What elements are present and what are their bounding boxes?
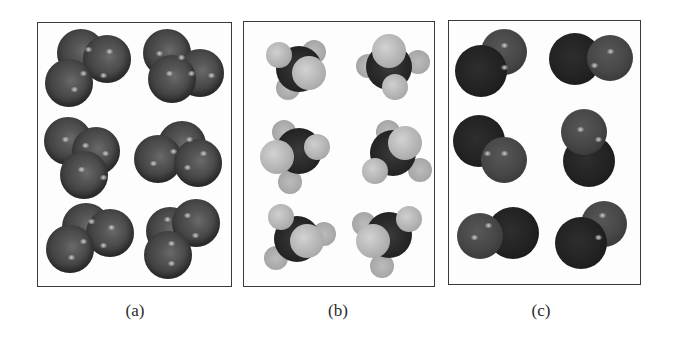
- highlight: [599, 213, 606, 218]
- highlight: [78, 167, 85, 172]
- hydrogen-atom: [304, 134, 330, 160]
- panel-a-caption: (a): [105, 301, 165, 321]
- atom: [144, 231, 192, 279]
- triatomic-molecule: [134, 121, 224, 201]
- highlight: [471, 235, 478, 240]
- highlight: [501, 43, 508, 48]
- diatomic-molecule: [553, 107, 643, 187]
- diatomic-molecule: [453, 29, 543, 109]
- highlight: [170, 149, 177, 154]
- atom: [174, 139, 222, 187]
- dark-atom: [555, 217, 607, 269]
- diatomic-molecule: [457, 207, 547, 287]
- hydrogen-atom: [362, 158, 388, 184]
- atom: [46, 225, 94, 273]
- medium-atom: [481, 137, 527, 183]
- highlight: [108, 225, 115, 230]
- highlight: [192, 233, 199, 238]
- triatomic-molecule: [43, 29, 133, 109]
- highlight: [166, 71, 173, 76]
- highlight: [501, 65, 508, 70]
- tetrahedral-molecule: [354, 120, 444, 200]
- diatomic-molecule: [451, 115, 541, 195]
- triatomic-molecule: [138, 29, 228, 109]
- highlight: [85, 47, 92, 52]
- diatomic-molecule: [549, 31, 639, 111]
- atom: [148, 55, 196, 103]
- medium-atom: [457, 213, 503, 259]
- highlight: [100, 175, 107, 180]
- highlight: [595, 235, 602, 240]
- dark-atom: [455, 45, 507, 97]
- hydrogen-atom: [266, 42, 292, 68]
- highlight: [485, 223, 492, 228]
- hydrogen-atom: [356, 224, 390, 258]
- highlight: [178, 55, 185, 60]
- panel-c-frame: [448, 20, 641, 285]
- tetrahedral-molecule: [354, 32, 444, 112]
- highlight: [156, 51, 163, 56]
- hydrogen-atom: [292, 56, 326, 90]
- medium-atom: [561, 109, 607, 155]
- tetrahedral-molecule: [350, 202, 440, 282]
- highlight: [150, 161, 157, 166]
- tetrahedral-molecule: [258, 118, 348, 198]
- hydrogen-atom: [260, 140, 294, 174]
- triatomic-molecule: [44, 117, 134, 197]
- highlight: [591, 63, 598, 68]
- hydrogen-atom: [388, 126, 422, 160]
- panel-a-frame: [37, 22, 232, 287]
- highlight: [200, 151, 207, 156]
- highlight: [186, 137, 193, 142]
- highlight: [80, 239, 87, 244]
- highlight: [484, 151, 491, 156]
- hydrogen-atom: [382, 74, 408, 100]
- highlight: [80, 71, 87, 76]
- atom: [45, 59, 93, 107]
- tetrahedral-molecule: [262, 36, 352, 116]
- highlight: [607, 49, 614, 54]
- highlight: [106, 49, 113, 54]
- highlight: [184, 213, 191, 218]
- hydrogen-atom: [268, 204, 294, 230]
- triatomic-molecule: [44, 203, 134, 283]
- highlight: [100, 243, 107, 248]
- hydrogen-atom: [396, 206, 422, 232]
- hydrogen-atom: [372, 34, 406, 68]
- panel-b-caption: (b): [308, 301, 368, 321]
- highlight: [577, 127, 584, 132]
- highlight: [501, 151, 508, 156]
- highlight: [595, 137, 602, 142]
- tetrahedral-molecule: [260, 202, 350, 282]
- highlight: [68, 255, 75, 260]
- highlight: [82, 143, 89, 148]
- highlight: [62, 137, 69, 142]
- hydrogen-atom: [290, 224, 324, 258]
- highlight: [188, 71, 195, 76]
- highlight: [102, 151, 109, 156]
- medium-atom: [587, 35, 633, 81]
- highlight: [88, 219, 95, 224]
- highlight: [164, 217, 171, 222]
- highlight: [71, 87, 78, 92]
- highlight: [100, 73, 107, 78]
- highlight: [208, 73, 215, 78]
- highlight: [168, 261, 175, 266]
- triatomic-molecule: [142, 199, 232, 279]
- diatomic-molecule: [553, 201, 643, 281]
- panel-b-frame: [243, 21, 435, 287]
- highlight: [184, 165, 191, 170]
- highlight: [168, 241, 175, 246]
- panel-c-caption: (c): [511, 301, 571, 321]
